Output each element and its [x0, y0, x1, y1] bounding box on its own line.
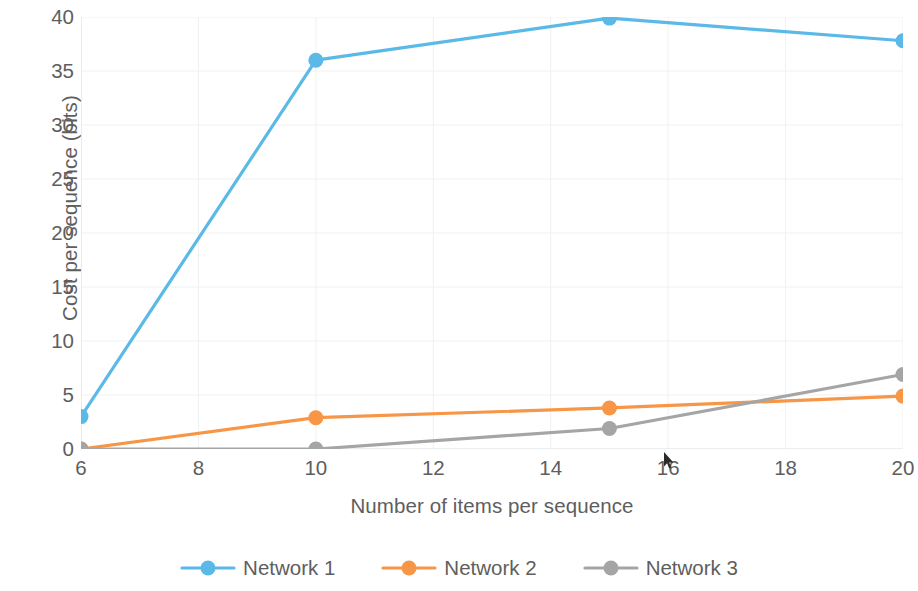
x-axis-tick-label: 12 — [403, 458, 463, 479]
data-point-marker — [308, 410, 323, 425]
legend-item-1[interactable]: Network 1 — [180, 556, 335, 580]
x-axis-tick-label: 10 — [286, 458, 346, 479]
data-point-marker — [81, 409, 89, 424]
series-1 — [81, 17, 903, 424]
x-axis-tick-label: 20 — [873, 458, 918, 479]
data-point-marker — [81, 442, 89, 450]
plot-svg — [81, 17, 903, 449]
y-axis-tick-label: 0 — [28, 439, 74, 460]
legend-item-label: Network 3 — [646, 556, 738, 580]
data-point-marker — [308, 442, 323, 450]
y-axis-tick-label: 10 — [28, 331, 74, 352]
y-axis-tick-label: 25 — [28, 169, 74, 190]
data-point-marker — [602, 17, 617, 26]
y-axis-tick-label: 35 — [28, 61, 74, 82]
x-axis-tick-label: 18 — [756, 458, 816, 479]
x-axis-tick-label: 8 — [168, 458, 228, 479]
series-3 — [81, 367, 903, 449]
legend-swatch-icon — [381, 559, 437, 577]
data-point-marker — [602, 400, 617, 415]
x-axis-title: Number of items per sequence — [81, 494, 903, 518]
legend-item-2[interactable]: Network 2 — [381, 556, 536, 580]
legend-swatch-icon — [583, 559, 639, 577]
y-axis-tick-label: 5 — [28, 385, 74, 406]
line-chart: Cost per sequence (bits) 403530252015105… — [0, 0, 918, 591]
y-axis-tick-labels: 4035302520151050 — [14, 0, 74, 591]
data-point-marker — [896, 33, 904, 48]
chart-legend: Network 1Network 2Network 3 — [0, 556, 918, 580]
data-point-marker — [896, 367, 904, 382]
y-axis-tick-label: 40 — [28, 7, 74, 28]
x-axis-tick-label: 14 — [521, 458, 581, 479]
y-axis-tick-label: 20 — [28, 223, 74, 244]
series-line — [81, 18, 903, 417]
x-axis-tick-label: 6 — [51, 458, 111, 479]
data-point-marker — [896, 389, 904, 404]
mouse-pointer-icon — [663, 452, 675, 469]
legend-swatch-icon — [180, 559, 236, 577]
series-line — [81, 396, 903, 449]
data-point-marker — [602, 421, 617, 436]
y-axis-tick-label: 15 — [28, 277, 74, 298]
plot-area — [81, 17, 903, 449]
legend-item-label: Network 1 — [243, 556, 335, 580]
gridlines — [81, 17, 903, 449]
legend-item-3[interactable]: Network 3 — [583, 556, 738, 580]
legend-item-label: Network 2 — [444, 556, 536, 580]
data-point-marker — [308, 53, 323, 68]
y-axis-tick-label: 30 — [28, 115, 74, 136]
